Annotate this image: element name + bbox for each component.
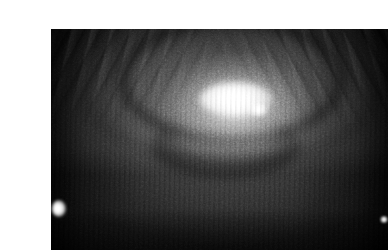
edge-vignette-layer <box>51 29 388 250</box>
grayscale-macro-photograph: Close-up grayscale macro photograph of s… <box>51 29 388 250</box>
